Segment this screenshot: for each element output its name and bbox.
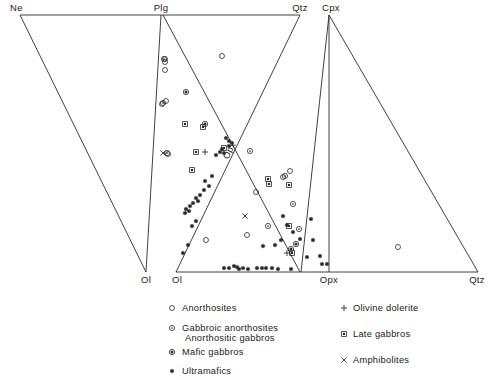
legend-label: Olivine dolerite [353, 303, 419, 313]
legend-label: Amphibolites [353, 355, 409, 365]
data-point [183, 122, 188, 127]
data-point [210, 174, 214, 178]
legend-right-column: Olivine doleriteLate gabbrosAmphibolites [341, 303, 419, 365]
vertex-label-cpx: Cpx [322, 2, 340, 13]
data-point [224, 136, 228, 140]
data-point [290, 201, 295, 206]
data-point [265, 223, 270, 228]
data-point [245, 233, 250, 238]
symbol-small-square [342, 332, 347, 337]
legend-label: Gabbroic anorthosites [182, 323, 278, 333]
data-point [270, 266, 274, 270]
data-point [163, 68, 168, 73]
data-point [287, 183, 292, 188]
data-point [246, 267, 250, 271]
legend-item-late-gabbros[interactable]: Late gabbros [342, 329, 411, 339]
data-point [293, 241, 298, 246]
data-point [183, 89, 188, 94]
data-point [255, 266, 259, 270]
data-point [163, 60, 168, 65]
data-point [281, 214, 285, 218]
edge-plg-ol-left [146, 15, 161, 272]
data-point [396, 245, 401, 250]
data-point [183, 211, 187, 215]
data-point [273, 243, 277, 247]
legend-label-line2: Anorthositic gabbros [185, 333, 275, 343]
legend-item-gabbroic-anorthosites[interactable]: Gabbroic anorthositesAnorthositic gabbro… [169, 323, 278, 343]
legend-item-mafic-gabbros[interactable]: Mafic gabbros [169, 347, 243, 357]
data-point [204, 238, 209, 243]
vertex-label-plg: Plg [154, 2, 169, 13]
data-point [222, 151, 226, 155]
edge-cpx-qtz [329, 15, 478, 272]
vertex-label-qtz-bottom: Qtz [469, 274, 485, 285]
data-point [305, 255, 309, 259]
data-point [190, 224, 194, 228]
data-point [160, 150, 165, 155]
data-point [276, 267, 280, 271]
data-points-layer [160, 54, 401, 271]
symbol-solid-dot [170, 369, 174, 373]
edge-cpx-opx-left [301, 15, 329, 272]
legend-label: Late gabbros [353, 329, 410, 339]
legend-label: Mafic gabbros [182, 347, 244, 357]
legend: AnorthositesGabbroic anorthositesAnortho… [169, 303, 418, 376]
data-point [325, 262, 329, 266]
data-point [202, 149, 208, 155]
data-point [220, 54, 225, 59]
data-point [214, 153, 218, 157]
data-point [318, 254, 322, 258]
data-point [266, 177, 271, 182]
data-point [190, 168, 195, 173]
symbol-open-circle [170, 306, 175, 311]
data-point [207, 184, 211, 188]
data-point [289, 267, 293, 271]
data-point [237, 267, 241, 271]
data-point [264, 266, 268, 270]
data-point [203, 179, 207, 183]
data-point [198, 193, 202, 197]
data-point [194, 219, 198, 223]
vertex-label-opx: Opx [320, 274, 338, 285]
data-point [288, 169, 293, 174]
legend-item-ultramafics[interactable]: Ultramafics [170, 366, 231, 376]
vertex-label-ol-left: Ol [141, 274, 151, 285]
data-point [230, 141, 234, 145]
data-point [194, 150, 199, 155]
data-point [227, 266, 231, 270]
data-point [202, 188, 206, 192]
data-point [291, 230, 295, 234]
data-point [267, 182, 272, 187]
data-point [242, 213, 247, 218]
data-point [247, 148, 252, 153]
legend-item-amphibolites[interactable]: Amphibolites [341, 355, 409, 365]
vertex-label-qtz-top: Qtz [292, 2, 308, 13]
data-point [187, 209, 191, 213]
data-point [222, 266, 226, 270]
legend-item-olivine-dolerite[interactable]: Olivine dolerite [341, 303, 419, 313]
vertex-label-ne: Ne [10, 2, 23, 13]
symbol-cross [341, 357, 346, 362]
data-point [320, 262, 324, 266]
data-point [188, 204, 192, 208]
edge-qtz-ol-right [176, 15, 300, 272]
data-point [196, 199, 200, 203]
data-point [261, 244, 265, 248]
legend-label: Anorthosites [182, 303, 237, 313]
data-point [191, 201, 195, 205]
series-amphibolites [160, 150, 247, 218]
legend-item-anorthosites[interactable]: Anorthosites [170, 303, 237, 313]
data-point [186, 243, 190, 247]
data-point [227, 144, 231, 148]
data-point [279, 238, 283, 242]
symbol-circle-filled-center [169, 349, 174, 354]
legend-left-column: AnorthositesGabbroic anorthositesAnortho… [169, 303, 278, 376]
data-point [181, 251, 185, 255]
data-point [260, 266, 264, 270]
data-point [296, 226, 301, 231]
edge-opx-line-upper [246, 170, 300, 272]
series-mafic-gabbros [183, 89, 298, 251]
vertex-label-ol-right: Ol [172, 274, 182, 285]
edge-ne-ol [20, 15, 146, 272]
data-point [298, 237, 302, 241]
